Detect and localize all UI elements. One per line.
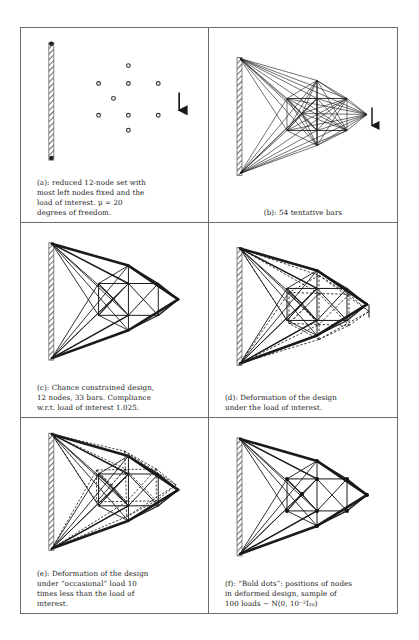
panel-e-caption: (e): Deformation of the design under “oc… (21, 569, 208, 613)
design-bars (52, 434, 178, 548)
panel-f: (f): “Bold dots”: positions of nodes in … (209, 418, 397, 613)
bold-dots-sampled-loads-diagram (209, 418, 397, 579)
panel-c-caption: (c): Chance constrained design, 12 nodes… (21, 383, 208, 417)
design-bars (240, 439, 367, 554)
tentative-bars-diagram (209, 28, 397, 208)
tentative-bar-network (240, 58, 367, 173)
support-wall (49, 433, 54, 550)
panel-e-figure (21, 418, 208, 569)
panel-b: (b): 54 tentative bars (209, 28, 397, 223)
panel-c: (c): Chance constrained design, 12 nodes… (21, 223, 209, 418)
caption-line: (e): Deformation of the design (37, 569, 149, 578)
caption-line: under “occasional” load 10 (37, 579, 137, 588)
caption-line: (c): Chance constrained design, (37, 383, 154, 392)
caption-line: interest. (37, 599, 68, 608)
support-wall (237, 57, 242, 175)
panel-e: (e): Deformation of the design under “oc… (21, 418, 209, 613)
caption-line: under the load of interest. (225, 403, 322, 412)
figure-grid: (a): reduced 12-node set with most left … (20, 27, 398, 614)
support-wall (49, 43, 54, 160)
panel-a: (a): reduced 12-node set with most left … (21, 28, 209, 223)
chance-constrained-design-diagram (21, 223, 208, 383)
caption-line: (a): reduced 12-node set with (37, 178, 146, 187)
caption-line: (d): Deformation of the design (225, 393, 337, 402)
support-wall (237, 247, 242, 365)
caption-line: (b): 54 tentative bars (264, 208, 342, 217)
caption-line: (f): “Bold dots”: positions of nodes (225, 579, 352, 588)
caption-line: times less than the load of (37, 589, 134, 598)
caption-line: w.r.t. load of interest 1.025. (37, 403, 139, 412)
panel-b-caption: (b): 54 tentative bars (209, 208, 397, 222)
truss-ground-structure-diagram (21, 28, 208, 178)
panel-d: (d): Deformation of the design under the… (209, 223, 397, 418)
panel-d-figure (209, 223, 397, 393)
caption-line: degrees of freedom. (37, 208, 111, 217)
panel-c-figure (21, 223, 208, 383)
panel-a-caption: (a): reduced 12-node set with most left … (21, 178, 208, 222)
design-bars (52, 244, 178, 358)
caption-line: most left nodes fixed and the (37, 188, 144, 197)
deformation-occasional-load-diagram (21, 418, 208, 569)
design-bars (240, 248, 367, 363)
caption-line: load of interest. μ = 20 (37, 198, 123, 207)
panel-f-figure (209, 418, 397, 579)
free-node-markers (97, 64, 160, 132)
panel-a-figure (21, 28, 208, 178)
deformation-load-of-interest-diagram (209, 223, 397, 393)
panel-d-caption: (d): Deformation of the design under the… (209, 393, 397, 417)
caption-line: 100 loads ~ N(0, 10⁻²I₂₀) (225, 599, 318, 608)
support-wall (237, 438, 242, 556)
caption-line: 12 nodes, 33 bars. Compliance (37, 393, 151, 402)
panel-f-caption: (f): “Bold dots”: positions of nodes in … (209, 579, 397, 613)
support-wall (49, 243, 54, 360)
caption-line: in deformed design, sample of (225, 589, 337, 598)
panel-b-figure (209, 28, 397, 208)
